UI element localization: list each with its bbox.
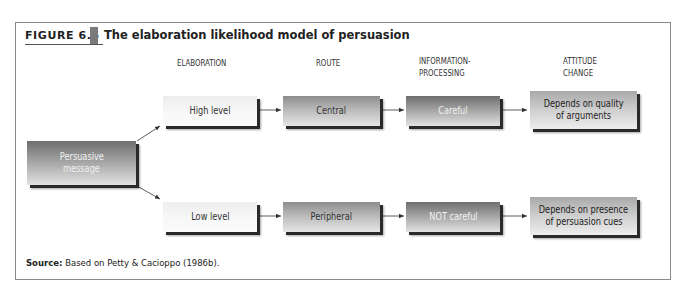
node-central-route: Central <box>283 96 380 126</box>
node-central-route-label: Central <box>317 105 347 117</box>
node-peripheral-route-label: Peripheral <box>311 211 352 223</box>
node-not-careful-processing: NOT careful <box>406 202 500 232</box>
source-note: Source: Based on Petty & Cacioppo (1986b… <box>26 258 219 268</box>
node-persuasive-message: Persuasive message <box>27 141 136 185</box>
node-persuasive-message-line1: Persuasive <box>59 151 103 163</box>
node-attitude-presence-line1: Depends on presence <box>539 204 628 216</box>
node-low-level-label: Low level <box>191 211 229 223</box>
source-label: Source: <box>26 258 62 268</box>
node-careful-processing: Careful <box>406 96 500 126</box>
node-low-level: Low level <box>163 202 257 232</box>
node-high-level-label: High level <box>190 105 231 117</box>
node-attitude-quality: Depends on quality of arguments <box>530 91 637 129</box>
node-high-level: High level <box>163 96 257 126</box>
node-attitude-presence-line2: of persuasion cues <box>545 216 622 228</box>
node-attitude-presence: Depends on presence of persuasion cues <box>530 197 637 235</box>
node-attitude-quality-line1: Depends on quality <box>544 98 624 110</box>
node-peripheral-route: Peripheral <box>283 202 380 232</box>
node-persuasive-message-line2: message <box>63 163 100 175</box>
source-text: Based on Petty & Cacioppo (1986b). <box>65 258 219 268</box>
node-not-careful-processing-label: NOT careful <box>429 211 477 223</box>
node-attitude-quality-line2: of arguments <box>556 110 611 122</box>
node-careful-processing-label: Careful <box>438 105 467 117</box>
